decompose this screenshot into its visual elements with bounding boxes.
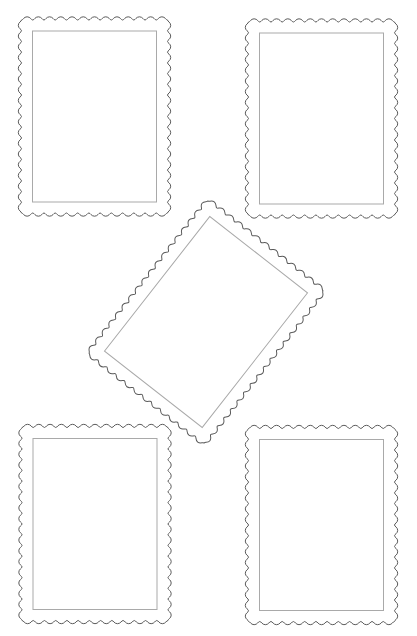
stamp-sheet	[0, 0, 417, 636]
stamp-outline-top-right	[245, 19, 397, 218]
stamp-outline-top-left	[18, 17, 170, 216]
stamp-outline-bottom-right	[245, 425, 397, 624]
stamp-outline-bottom-left	[19, 424, 171, 623]
stamp-outline-center-rotated	[85, 197, 328, 448]
stamps-layer	[18, 17, 397, 625]
